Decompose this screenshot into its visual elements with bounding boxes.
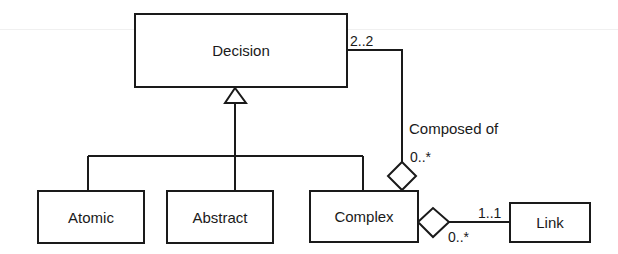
class-atomic[interactable]: Atomic <box>37 190 145 244</box>
class-abstract-label: Abstract <box>192 209 247 226</box>
class-complex[interactable]: Complex <box>309 190 419 243</box>
aggregation-diamond-right-icon <box>418 208 449 237</box>
class-link-label: Link <box>536 214 564 231</box>
decision-multiplicity: 2..2 <box>350 34 373 48</box>
class-abstract[interactable]: Abstract <box>166 190 274 244</box>
aggregation-diamond-top-icon <box>388 162 416 190</box>
class-decision[interactable]: Decision <box>134 13 348 88</box>
class-complex-label: Complex <box>334 208 393 225</box>
class-link[interactable]: Link <box>509 202 591 243</box>
complex-decision-multiplicity: 0..* <box>410 150 431 164</box>
link-multiplicity: 1..1 <box>478 206 501 220</box>
composed-of-label: Composed of <box>409 121 498 136</box>
class-atomic-label: Atomic <box>68 209 114 226</box>
complex-link-multiplicity: 0..* <box>448 230 469 244</box>
composed-of-line <box>347 50 402 162</box>
class-decision-label: Decision <box>212 42 270 59</box>
generalization-triangle-icon <box>225 88 246 103</box>
